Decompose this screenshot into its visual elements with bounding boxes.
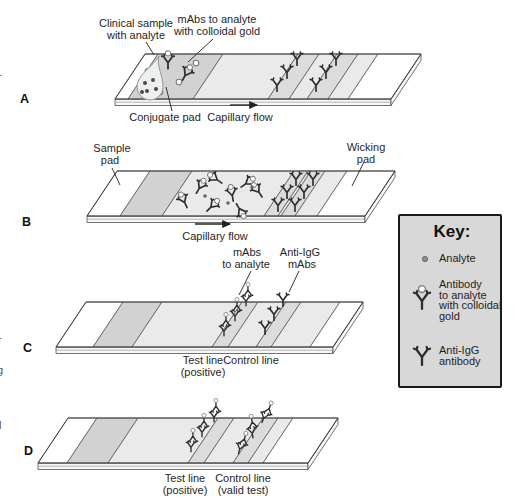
antibody-gold-icon [409, 282, 435, 312]
sample-pad-label-line1: Sample [93, 143, 130, 154]
analyte-dot-icon [140, 90, 144, 94]
analyte-dot-icon [143, 81, 147, 85]
mabs-gold-label-line2: with colloidal gold [174, 26, 260, 37]
test-line-label-d-line2: (positive) [163, 485, 208, 496]
analyte-dot-icon [250, 185, 254, 189]
key-analyte-label: Analyte [439, 253, 476, 264]
clinical-sample-label-line2: with analyte [107, 30, 165, 41]
test-strip-c [56, 282, 363, 353]
analyte-dot-icon [226, 201, 230, 205]
leader-line-clinical-sample [146, 42, 154, 55]
test-line-label-d-line1: Test line [165, 473, 205, 484]
key-antibody-gold-label-line4: gold [439, 311, 460, 322]
test-line-label-c-line2: (positive) [181, 367, 226, 378]
capillary-flow-label-b: Capillary flow [182, 231, 247, 242]
panel-letter-a: A [20, 92, 29, 106]
gold-particle-icon [176, 79, 182, 85]
anti-igg-mabs-label-line1: Anti-IgG [280, 247, 320, 258]
analyte-dot-icon [203, 194, 207, 198]
panel-letter-c: C [23, 341, 32, 355]
key-title: Key: [434, 222, 471, 242]
leader-line-anti-igg-mabs [289, 271, 299, 292]
test-line-label-c-line1: Test line [183, 355, 223, 366]
mabs-gold-label-line1: mAbs to analyte [178, 14, 257, 25]
gold-particle-icon [193, 60, 199, 66]
control-line-label-d-line1: Control line [215, 473, 271, 484]
edge-text-fragment: - [0, 68, 2, 80]
sample-pad-label-line2: pad [101, 155, 119, 166]
control-line-label-d-line2: (valid test) [218, 485, 269, 496]
panel-letter-b: B [22, 215, 31, 229]
wicking-pad-label-line1: Wicking [347, 142, 386, 153]
control-line-label-c: Control line [223, 355, 279, 366]
analyte-dot-icon [151, 78, 155, 82]
test-strip-b [87, 169, 395, 223]
clinical-sample-label-line1: Clinical sample [99, 18, 173, 29]
anti-igg-mabs-label-line2: mAbs [288, 259, 316, 270]
key-anti-igg-label-line2: antibody [439, 356, 481, 367]
key-legend-box: Key: Analyte Antibody to analyte with co… [398, 214, 502, 388]
mabs-to-analyte-label-line1: mAbs [233, 247, 261, 258]
capillary-flow-label-a: Capillary flow [207, 112, 272, 123]
conjugate-pad-label: Conjugate pad [129, 112, 201, 123]
wicking-pad-label-line2: pad [357, 154, 375, 165]
analyte-dot-icon [154, 87, 158, 91]
mabs-to-analyte-label-line2: to analyte [222, 259, 270, 270]
edge-text-fragment: g [0, 364, 3, 376]
lateral-flow-assay-figure: Clinical sample with analyte mAbs to ana… [0, 0, 514, 504]
panel-letter-d: D [24, 444, 33, 458]
edge-text-fragment: l [0, 419, 1, 431]
anti-igg-antibody-icon [409, 344, 435, 366]
test-strip-d [38, 398, 338, 469]
analyte-dot-icon [145, 89, 149, 93]
edge-text-fragment: - [0, 331, 2, 343]
analyte-dot-icon [419, 253, 431, 265]
